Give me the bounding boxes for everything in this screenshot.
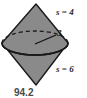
- bicone-diagram-svg: s = 4 s = 6 3 94.2: [0, 0, 87, 98]
- lower-slant-label: s = 6: [55, 64, 74, 74]
- bicone-figure: s = 4 s = 6 3 94.2: [0, 0, 87, 98]
- figure-caption: 94.2: [14, 87, 34, 98]
- radius-label: 3: [56, 28, 62, 38]
- upper-slant-label: s = 4: [55, 7, 74, 17]
